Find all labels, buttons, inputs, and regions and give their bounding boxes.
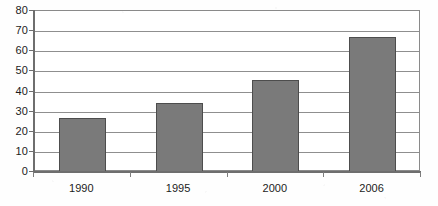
bar-1990	[59, 118, 106, 172]
y-tick-mark-60	[29, 50, 34, 51]
x-tick-label-2006: 2006	[323, 182, 420, 194]
y-tick-label-0: 0	[2, 166, 28, 177]
x-tick-label-2000: 2000	[227, 182, 324, 194]
y-tick-label-70: 70	[2, 25, 28, 36]
gridline-70	[34, 31, 419, 32]
bar-2006	[349, 37, 396, 172]
x-tick-label-1995: 1995	[130, 182, 227, 194]
y-tick-mark-80	[29, 10, 34, 11]
y-tick-label-20: 20	[2, 126, 28, 137]
bar-2000	[252, 80, 299, 172]
y-tick-label-50: 50	[2, 65, 28, 76]
x-tick-mark-3	[323, 172, 324, 177]
y-tick-label-40: 40	[2, 86, 28, 97]
y-tick-label-80: 80	[2, 5, 28, 16]
x-tick-label-1990: 1990	[33, 182, 130, 194]
x-tick-mark-0	[33, 172, 34, 177]
y-tick-mark-40	[29, 91, 34, 92]
y-tick-mark-70	[29, 30, 34, 31]
x-tick-mark-1	[130, 172, 131, 177]
y-tick-mark-50	[29, 70, 34, 71]
y-tick-mark-10	[29, 151, 34, 152]
y-tick-label-60: 60	[2, 45, 28, 56]
y-axis-labels: 01020304050607080	[0, 0, 28, 206]
x-tick-mark-2	[227, 172, 228, 177]
bar-chart: 01020304050607080 1990199520002006	[0, 0, 438, 206]
y-tick-label-30: 30	[2, 106, 28, 117]
plot-area	[33, 10, 420, 171]
x-tick-mark-4	[420, 172, 421, 177]
bar-1995	[156, 103, 203, 172]
y-tick-label-10: 10	[2, 146, 28, 157]
y-tick-mark-30	[29, 111, 34, 112]
y-tick-mark-20	[29, 131, 34, 132]
